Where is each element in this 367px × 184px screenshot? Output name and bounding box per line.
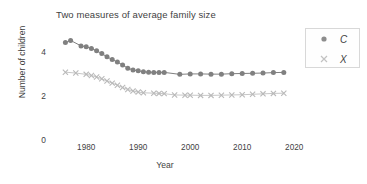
legend-item-x[interactable]: X: [306, 49, 359, 69]
chart-legend: C X: [305, 28, 360, 68]
series-c: [63, 38, 286, 77]
data-point: [115, 83, 120, 88]
data-point: [146, 70, 151, 75]
data-point: [68, 38, 73, 43]
data-point: [110, 81, 115, 86]
data-point: [229, 71, 234, 76]
data-point: [188, 71, 193, 76]
data-point: [104, 78, 109, 83]
data-point: [219, 72, 224, 77]
data-point: [131, 67, 136, 72]
data-point: [89, 46, 94, 51]
data-point: [271, 70, 276, 75]
data-point: [79, 43, 84, 48]
data-point: [120, 85, 125, 90]
data-point: [94, 74, 99, 79]
data-point: [84, 44, 89, 49]
data-point: [105, 54, 110, 59]
legend-label-c: C: [340, 34, 347, 45]
chart-figure: Two measures of average family size Numb…: [0, 0, 367, 184]
data-point: [63, 40, 68, 45]
data-point: [136, 68, 141, 73]
data-point: [99, 51, 104, 56]
data-point: [94, 48, 99, 53]
data-point: [125, 66, 130, 71]
legend-cross-icon: [318, 53, 330, 65]
data-point: [99, 76, 104, 81]
data-point: [209, 72, 214, 77]
legend-item-c[interactable]: C: [306, 29, 359, 49]
legend-circle-icon: [318, 33, 330, 45]
data-point: [261, 71, 266, 76]
data-point: [177, 72, 182, 77]
data-point: [141, 69, 146, 74]
data-point: [151, 70, 156, 75]
data-point: [162, 70, 167, 75]
data-point: [250, 71, 255, 76]
data-point: [115, 60, 120, 65]
series-line: [65, 40, 283, 74]
data-point: [120, 62, 125, 67]
data-point: [240, 71, 245, 76]
data-point: [125, 87, 130, 92]
legend-label-x: X: [340, 54, 347, 65]
data-point: [157, 70, 162, 75]
data-point: [198, 71, 203, 76]
data-point: [110, 57, 115, 62]
data-point: [281, 70, 286, 75]
